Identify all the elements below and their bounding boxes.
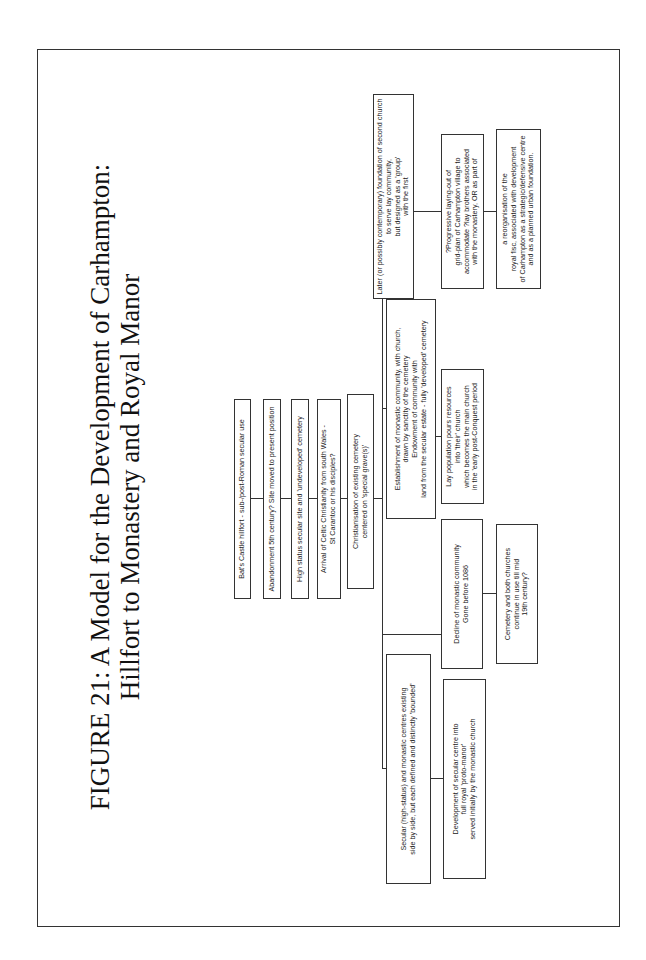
connector [484,211,496,212]
box-cemetery-churches: Cemetery and both churches continue in u… [496,524,538,664]
connector [382,634,441,635]
figure-title-line2: Hillfort to Monastery and Royal Manor [115,48,145,926]
box-lay-population: Lay population pours resources into 'the… [441,369,484,504]
connector [483,593,496,594]
box-christianisation: Christianisation of existing cemetery ce… [347,394,374,589]
box-celtic-christianity: Arrival of Celtic Christianity from sout… [317,399,341,599]
box-monastic-community: Establishment of monastic community, wit… [386,299,436,519]
box-abandonment: Abandonment 5th century? Site moved to p… [263,399,281,599]
box-bats-castle: Bat's Castle hillfort - sub-/post-Roman … [234,399,251,599]
connector [414,211,441,212]
connector [431,778,443,779]
box-proto-manor: Development of secular centre into full … [443,679,486,879]
box-royal-fisc-reorganisation: a reorganisation of the royal fisc, asso… [496,129,541,289]
figure-title-line1: FIGURE 21: A Model for the Development o… [85,48,115,926]
box-second-church: Later (or possibly contemporary) foundat… [373,94,414,299]
box-high-status: High status secular site and 'undevelope… [291,399,309,599]
box-decline: Decline of monastic community Gone befor… [441,519,483,669]
figure-page: FIGURE 21: A Model for the Development o… [37,49,620,927]
box-progressive-layout: ?Progressive laying-out of grid-plan of … [441,134,484,289]
box-secular-monastic-side-by-side: Secular (high-status) and monastic centr… [386,654,431,884]
